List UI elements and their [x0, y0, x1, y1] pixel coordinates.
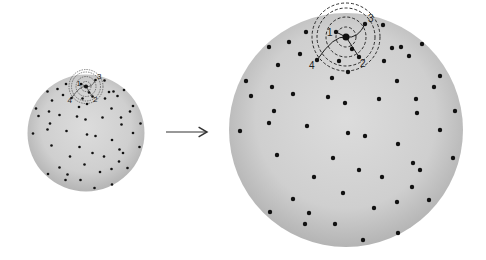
sphere-large — [229, 13, 463, 247]
galaxy-dot — [84, 118, 87, 121]
galaxy-dot — [62, 94, 65, 97]
galaxy-dot — [118, 148, 121, 151]
galaxy-dot — [307, 211, 311, 215]
galaxy-dot — [333, 222, 337, 226]
galaxy-dot — [101, 116, 104, 119]
galaxy-dot — [341, 191, 345, 195]
galaxy-dot — [418, 168, 422, 172]
galaxy-dot — [139, 122, 142, 125]
galaxy-dot — [32, 132, 35, 135]
galaxy-dot — [46, 90, 49, 93]
galaxy-dot — [94, 135, 97, 138]
galaxy-dot — [330, 76, 334, 80]
galaxy-dot — [399, 45, 403, 49]
galaxy-dot — [331, 156, 335, 160]
galaxy-dot — [122, 152, 125, 155]
galaxy-dot — [238, 129, 242, 133]
galaxy-label-3: 3 — [368, 13, 374, 24]
galaxy-dot — [407, 54, 411, 58]
galaxy-dot — [111, 139, 114, 142]
galaxy-dot — [415, 111, 419, 115]
galaxy-dot — [249, 94, 253, 98]
galaxy-dot — [291, 197, 295, 201]
galaxy-dot — [50, 144, 53, 147]
galaxy-dot — [69, 155, 72, 158]
galaxy-dot — [51, 99, 54, 102]
large-universe-sphere: 1234 — [229, 3, 463, 247]
galaxy-dot — [411, 161, 415, 165]
galaxy-label-4: 4 — [68, 96, 73, 105]
galaxy-dot — [380, 175, 384, 179]
galaxy-dot — [108, 91, 111, 94]
galaxy-dot — [46, 128, 49, 131]
galaxy-label-1: 1 — [77, 79, 82, 88]
galaxy-dot — [276, 63, 280, 67]
galaxy-dot — [104, 97, 107, 100]
galaxy-dot — [275, 153, 279, 157]
galaxy-dot — [291, 92, 295, 96]
galaxy-dot — [138, 146, 141, 149]
galaxy-dot — [66, 173, 69, 176]
galaxy-dot — [438, 74, 442, 78]
galaxy-dot — [110, 107, 113, 110]
galaxy-dot — [451, 156, 455, 160]
galaxy-dot — [116, 95, 119, 98]
galaxy-dot — [79, 179, 82, 182]
galaxy-dot — [64, 179, 67, 182]
galaxy-dot — [414, 97, 418, 101]
galaxy-dot — [99, 171, 102, 174]
galaxy-label-1: 1 — [327, 27, 333, 38]
galaxy-dot — [120, 123, 123, 126]
galaxy-dot — [47, 173, 50, 176]
galaxy-dot — [86, 103, 89, 106]
galaxy-dot — [395, 200, 399, 204]
galaxy-dot — [112, 90, 115, 93]
galaxy-dot — [132, 105, 135, 108]
galaxy-dot — [83, 163, 86, 166]
galaxy-dot — [81, 97, 84, 100]
galaxy-dot — [48, 110, 51, 113]
galaxy-dot — [110, 168, 113, 171]
galaxy-dot — [103, 155, 106, 158]
galaxy-dot — [267, 121, 271, 125]
galaxy-dot — [37, 115, 40, 118]
galaxy-dot — [111, 183, 114, 186]
galaxy-dot — [381, 23, 385, 27]
galaxy-dot — [395, 79, 399, 83]
galaxy-dot — [420, 42, 424, 46]
galaxy-dot — [93, 187, 96, 190]
galaxy-label-4: 4 — [309, 60, 315, 71]
galaxy-dot — [382, 59, 386, 63]
galaxy-dot — [357, 168, 361, 172]
galaxy-dot — [49, 122, 52, 125]
galaxy-dot — [103, 79, 106, 82]
small-universe-sphere: 1234 — [28, 70, 145, 192]
galaxy-dot — [346, 131, 350, 135]
reference-galaxy — [84, 84, 88, 88]
galaxy-dot — [56, 88, 59, 91]
galaxy-dot — [35, 107, 38, 110]
galaxy-dot — [410, 185, 414, 189]
galaxy-dot — [438, 128, 442, 132]
galaxy-dot — [432, 85, 436, 89]
galaxy-dot — [346, 70, 350, 74]
galaxy-dot — [343, 101, 347, 105]
galaxy-dot — [270, 85, 274, 89]
galaxy-4 — [315, 58, 319, 62]
galaxy-dot — [350, 47, 354, 51]
galaxy-dot — [305, 124, 309, 128]
expansion-diagram: 1234 1234 — [0, 0, 486, 260]
galaxy-dot — [304, 30, 308, 34]
galaxy-dot — [91, 152, 94, 155]
galaxy-dot — [88, 91, 91, 94]
galaxy-dot — [78, 146, 81, 149]
reference-galaxy — [342, 33, 349, 40]
galaxy-dot — [326, 95, 330, 99]
galaxy-dot — [126, 167, 129, 170]
galaxy-dot — [244, 79, 248, 83]
galaxy-dot — [312, 175, 316, 179]
galaxy-dot — [396, 142, 400, 146]
galaxy-dot — [129, 110, 132, 113]
galaxy-dot — [78, 106, 81, 109]
sphere-small — [28, 75, 145, 192]
